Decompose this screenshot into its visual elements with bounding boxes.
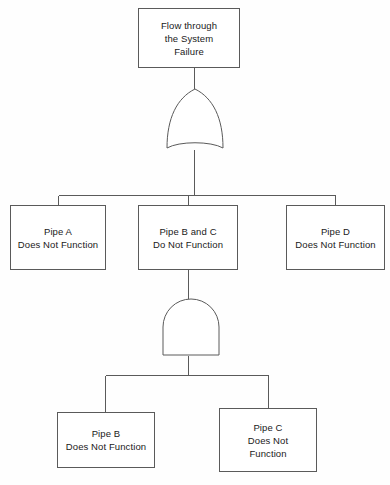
node-pipe-b-label: Pipe B Does Not Function — [62, 427, 150, 453]
node-pipe-d: Pipe D Does Not Function — [286, 205, 385, 270]
top-event-box: Flow through the System Failure — [138, 8, 240, 68]
node-pipe-b-and-c: Pipe B and C Do Not Function — [138, 205, 238, 270]
and-gate-icon — [161, 298, 221, 356]
node-pipe-a: Pipe A Does Not Function — [10, 205, 106, 270]
node-pipe-c-label: Pipe C Does Not Function — [244, 421, 292, 460]
top-event-label: Flow through the System Failure — [157, 19, 221, 58]
node-pipe-c: Pipe C Does Not Function — [219, 408, 317, 472]
fault-tree-diagram: Flow through the System Failure Pipe A D… — [0, 0, 390, 485]
node-pipe-a-label: Pipe A Does Not Function — [14, 225, 102, 251]
node-pipe-b: Pipe B Does Not Function — [57, 412, 155, 468]
node-pipe-b-and-c-label: Pipe B and C Do Not Function — [149, 225, 227, 251]
or-gate-icon — [165, 88, 225, 154]
node-pipe-d-label: Pipe D Does Not Function — [291, 225, 379, 251]
